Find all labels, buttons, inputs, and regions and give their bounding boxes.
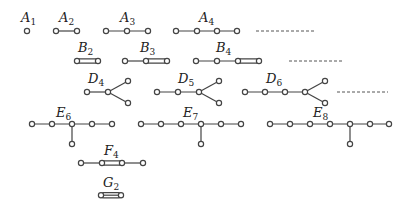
diagram-e7: E7 (138, 105, 243, 147)
label-b2: B2 (77, 40, 93, 57)
label-e7: E7 (182, 105, 199, 122)
diagram-a3: A3 (103, 10, 150, 34)
label-a1: A1 (20, 10, 36, 27)
diagram-e6: E6 (29, 105, 114, 147)
label-g2: G2 (103, 175, 119, 192)
diagram-e8: E8 (267, 105, 391, 147)
diagram-d4: D4 (84, 71, 130, 106)
label-d4: D4 (87, 71, 104, 88)
dynkin-diagram-figure: A1 A2 A3 A4 B2 B3 B4 (0, 0, 410, 210)
label-d5: D5 (177, 71, 194, 88)
diagram-d6: D6 (242, 71, 388, 106)
label-e8: E8 (312, 105, 329, 122)
diagram-a4: A4 (173, 10, 316, 34)
label-b4: B4 (215, 40, 232, 57)
diagram-g2: G2 (98, 175, 123, 198)
label-d6: D6 (265, 71, 282, 88)
diagram-f4: F4 (78, 143, 145, 166)
diagram-d5: D5 (154, 71, 221, 106)
label-f4: F4 (103, 143, 119, 160)
diagram-b2: B2 (74, 40, 100, 64)
node (24, 28, 29, 33)
diagram-a2: A2 (53, 10, 79, 34)
label-b3: B3 (139, 40, 156, 57)
label-e6: E6 (55, 105, 72, 122)
diagram-b3: B3 (122, 40, 169, 64)
label-a4: A4 (198, 10, 214, 27)
diagram-b4: B4 (193, 40, 343, 64)
diagram-a1: A1 (20, 10, 36, 34)
label-a3: A3 (119, 10, 135, 27)
label-a2: A2 (58, 10, 74, 27)
